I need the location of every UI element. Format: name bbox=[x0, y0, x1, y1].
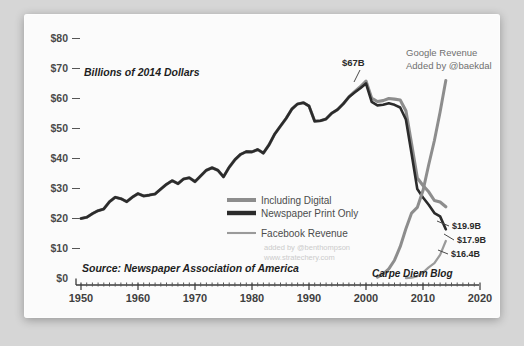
chart-subtitle: Billions of 2014 Dollars bbox=[84, 66, 200, 78]
google-annotation: Google Revenue Added by @baekdal bbox=[406, 47, 492, 71]
x-tick-label: 1960 bbox=[126, 292, 150, 304]
x-tick-label: 2020 bbox=[468, 292, 492, 304]
y-tick-label: $10 bbox=[50, 242, 68, 254]
y-tick-label: $60 bbox=[50, 92, 68, 104]
legend: Including Digital Newspaper Print Only F… bbox=[227, 195, 358, 262]
y-tick-label: $70 bbox=[50, 62, 68, 74]
blog-tag: Carpe Diem Blog bbox=[372, 268, 453, 279]
attribution-line-1: added by @benthompson bbox=[264, 243, 350, 252]
legend-label-including-digital: Including Digital bbox=[261, 195, 332, 206]
google-annotation-credit: Added by @baekdal bbox=[406, 60, 492, 71]
x-tick-label: 2010 bbox=[411, 292, 435, 304]
google-annotation-title: Google Revenue bbox=[406, 47, 477, 58]
peak-annotation: $67B bbox=[342, 57, 365, 82]
y-tick-label: $30 bbox=[50, 182, 68, 194]
end-label-leader-2 bbox=[444, 234, 454, 240]
y-tick-label: $20 bbox=[50, 212, 68, 224]
end-label-value: $17.9B bbox=[457, 235, 487, 245]
newspaper-revenue-chart: $80 $70 $60 $50 $40 $30 $20 $10 $0 bbox=[24, 14, 500, 318]
x-tick-label: 1990 bbox=[297, 292, 321, 304]
end-label-value: $19.9B bbox=[452, 221, 482, 231]
y-tick-label: $40 bbox=[50, 152, 68, 164]
peak-value-label: $67B bbox=[342, 57, 365, 68]
x-tick-label: 2000 bbox=[354, 292, 378, 304]
end-label-value: $16.4B bbox=[451, 249, 481, 259]
y-tick-label: $80 bbox=[50, 32, 68, 44]
x-tick-label: 1980 bbox=[240, 292, 264, 304]
attribution-line-2: www.stratechery.com bbox=[263, 253, 335, 262]
legend-label-facebook-revenue: Facebook Revenue bbox=[261, 228, 348, 239]
legend-label-newspaper-print-only: Newspaper Print Only bbox=[261, 208, 358, 219]
x-axis: 1950 1960 1970 1980 1990 2000 2010 2020 bbox=[69, 279, 492, 305]
y-tick-label: $50 bbox=[50, 122, 68, 134]
source-note: Source: Newspaper Association of America bbox=[82, 262, 299, 274]
peak-leader-line bbox=[354, 70, 360, 82]
series-google-revenue bbox=[377, 81, 445, 278]
x-tick-label: 1950 bbox=[69, 292, 93, 304]
y-tick-label: $0 bbox=[56, 272, 68, 284]
chart-card: $80 $70 $60 $50 $40 $30 $20 $10 $0 bbox=[24, 14, 500, 318]
screenshot-frame: $80 $70 $60 $50 $40 $30 $20 $10 $0 bbox=[0, 0, 524, 346]
year-tick-group bbox=[81, 283, 480, 291]
x-tick-label: 1970 bbox=[183, 292, 207, 304]
y-axis: $80 $70 $60 $50 $40 $30 $20 $10 $0 bbox=[50, 32, 80, 284]
